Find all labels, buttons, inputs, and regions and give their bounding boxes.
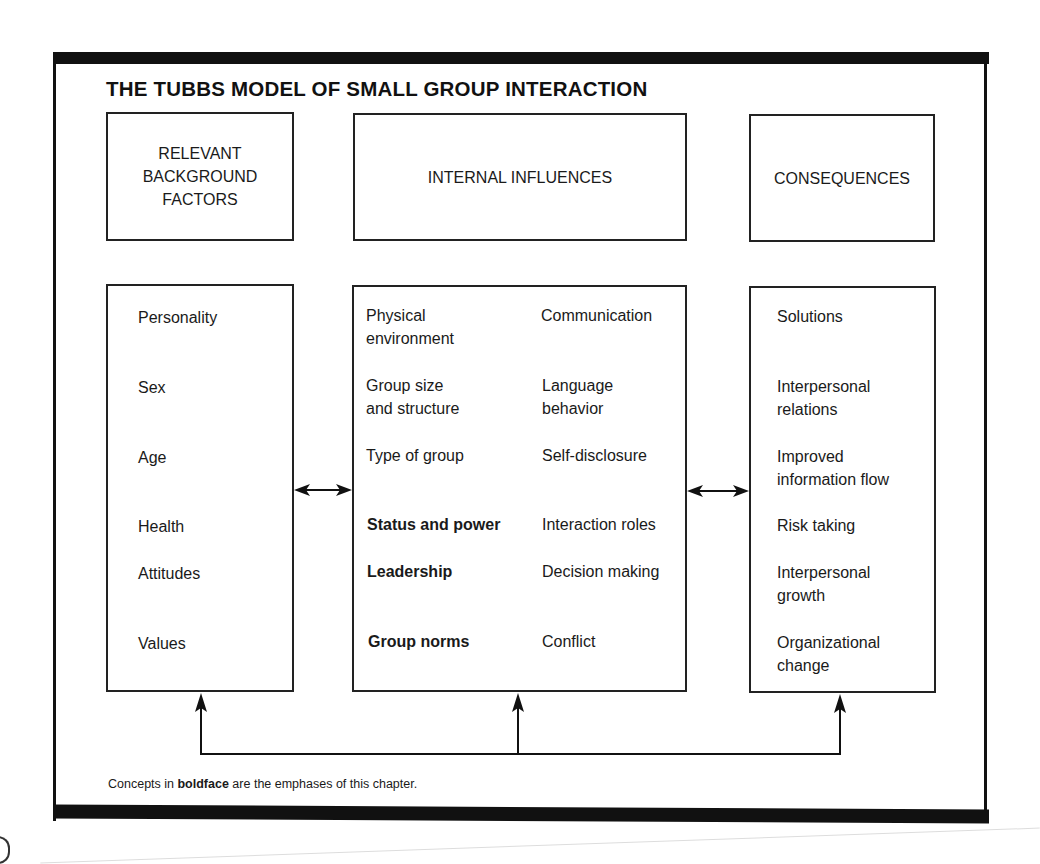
footnote: Concepts in boldface are the emphases of…: [108, 777, 417, 791]
footnote-prefix: Concepts in: [108, 777, 177, 791]
footnote-suffix: are the emphases of this chapter.: [229, 777, 417, 791]
footnote-bold: boldface: [177, 777, 228, 791]
feedback-line: [201, 702, 840, 754]
